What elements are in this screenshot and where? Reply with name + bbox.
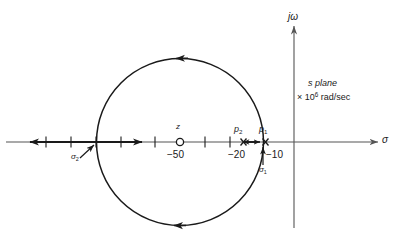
tick-label-minus-10: −10: [266, 150, 283, 160]
imaginary-axis-label: jω: [288, 12, 298, 22]
root-locus-figure: jω σ s plane × 106 rad/sec z −50 −20 −10…: [0, 0, 400, 238]
scale-prefix: ×: [297, 92, 302, 102]
scale-units: rad/sec: [321, 92, 351, 102]
scale-base: 10: [305, 92, 315, 102]
scale-exponent: 6: [315, 91, 319, 98]
pole-label-p1: p1: [259, 125, 267, 135]
tick-label-minus-20: −20: [228, 150, 245, 160]
zero-marker-z: [176, 138, 183, 145]
tick-label-minus-50: −50: [167, 150, 184, 160]
pole-label-p2-subscript: 2: [239, 128, 242, 135]
scale-annotation: × 106 rad/sec: [297, 92, 350, 102]
breakaway-label-sigma2: σ2: [71, 153, 79, 162]
figure-canvas: [0, 0, 400, 238]
breakaway-label-sigma1-subscript: 1: [264, 169, 267, 175]
sigma2-leader-arrow: [80, 145, 94, 158]
plane-annotation: s plane: [308, 79, 337, 88]
breakaway-label-sigma2-subscript: 2: [76, 156, 79, 162]
axes-group: [6, 26, 378, 228]
breakaway-label-sigma1: σ1: [259, 166, 267, 175]
pole-label-p2: p2: [234, 125, 242, 135]
pole-label-p1-subscript: 1: [264, 128, 267, 135]
zero-label-z: z: [176, 123, 180, 131]
real-axis-label: σ: [382, 135, 388, 145]
